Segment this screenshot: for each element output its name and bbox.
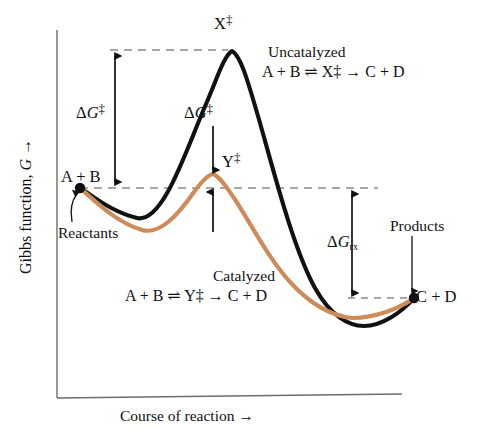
x-axis-title: Course of reaction → (120, 408, 254, 424)
delta-g-symbol-g: G (87, 103, 99, 122)
y-axis-arrow: → (17, 139, 34, 159)
transition-state-x-symbol: X (214, 14, 226, 33)
catalyzed-equation: A + B ⇌ Y‡ → C + D (125, 288, 267, 305)
delta-g-activation-uncatalyzed-label: ΔG‡ (76, 103, 105, 122)
doubledagger-icon: ‡ (234, 151, 240, 165)
delta-g-symbol-g: G (195, 103, 207, 122)
reactants-callout-leader (71, 194, 77, 222)
y-axis-symbol: G (17, 159, 34, 171)
delta-g-symbol-g: G (338, 232, 350, 251)
x-axis-line (57, 394, 402, 398)
uncatalyzed-heading: Uncatalyzed (268, 44, 345, 60)
reactants-state-label: A + B (61, 168, 101, 185)
delta-g-reaction-label: ΔGrx (327, 233, 358, 252)
delta-g-symbol-prefix: Δ (184, 103, 195, 122)
delta-g-symbol-prefix: Δ (76, 103, 87, 122)
reactants-callout-label: Reactants (58, 225, 118, 241)
doubledagger-icon: ‡ (207, 102, 213, 116)
delta-g-activation-catalyzed-label: ΔG‡ (184, 103, 213, 122)
uncatalyzed-equation: A + B ⇌ X‡ → C + D (262, 64, 405, 81)
doubledagger-icon: ‡ (99, 102, 105, 116)
delta-g-reaction-subscript: rx (350, 241, 359, 252)
transition-state-y-label: Y‡ (222, 152, 240, 171)
transition-state-y-symbol: Y (222, 152, 234, 171)
y-axis-title: Gibbs function, G → (18, 106, 35, 306)
catalyzed-heading: Catalyzed (213, 268, 275, 284)
doubledagger-icon: ‡ (226, 13, 232, 27)
delta-g-symbol-prefix: Δ (327, 232, 338, 251)
transition-state-x-label: X‡ (214, 14, 232, 33)
gibbs-energy-diagram: Gibbs function, G → Course of reaction →… (0, 0, 482, 438)
products-state-label: C + D (416, 288, 456, 305)
products-callout-label: Products (390, 218, 444, 234)
y-axis-title-text: Gibbs function, (17, 170, 34, 274)
